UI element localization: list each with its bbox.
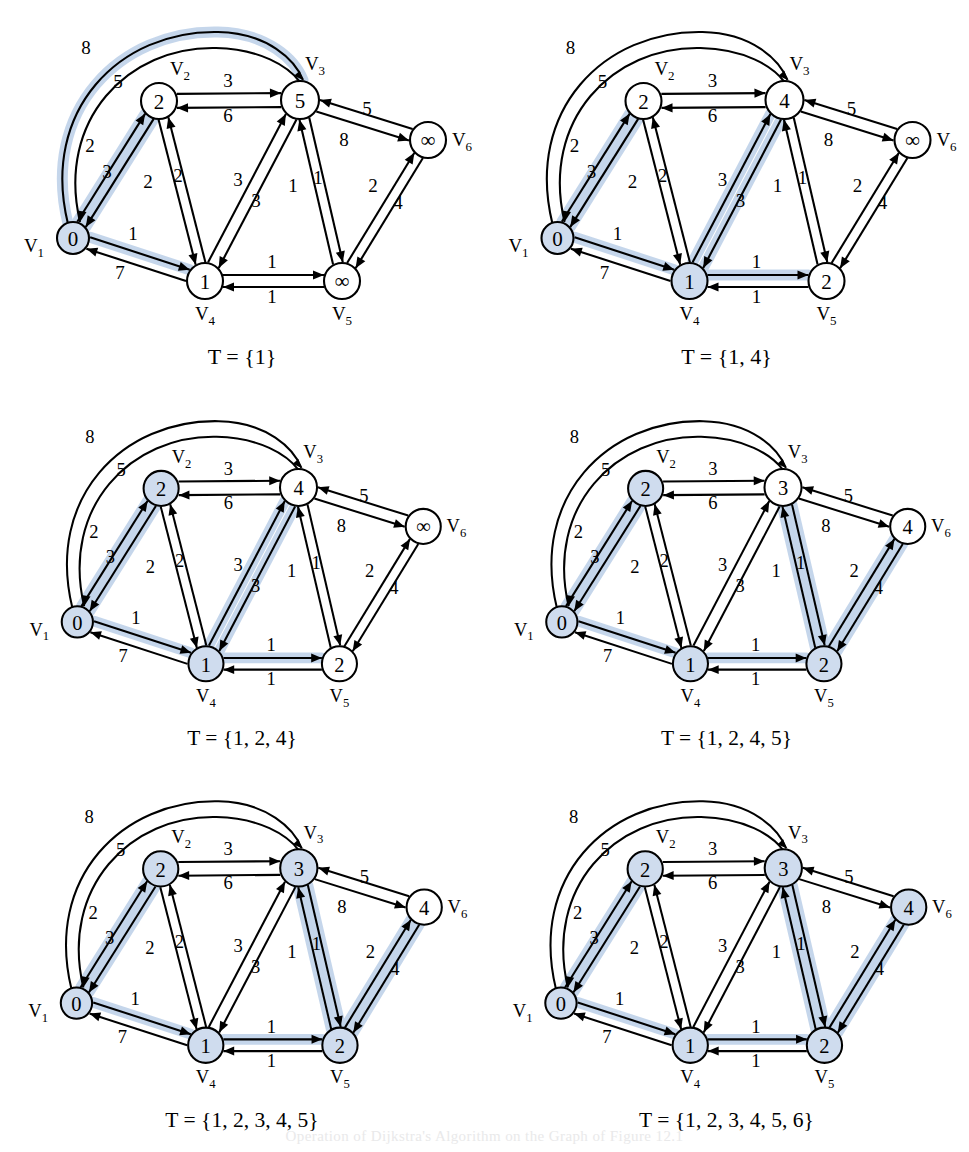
edge-v2_v4 <box>643 120 680 265</box>
edge-weight-v3_v6: 8 <box>337 896 346 917</box>
edge-v4_v2 <box>170 504 206 645</box>
vertex-label-subscript-v5: 5 <box>346 313 353 328</box>
edge-weight-v5_v4_bottom: 1 <box>267 1050 276 1071</box>
vertex-label-v6: V6 <box>447 516 467 540</box>
vertex-label-letter-v3: V <box>303 442 317 462</box>
edge-weight-v1_v3_arc: 8 <box>85 427 94 447</box>
edge-weight-v4_v5_top: 1 <box>267 1016 276 1037</box>
edge-weight-v3_v5_a: 1 <box>287 941 296 962</box>
vertex-label-letter-v3: V <box>304 822 318 843</box>
node-value-v3: 3 <box>778 858 788 880</box>
edge-v5_v6 <box>829 539 895 646</box>
edge-weight-v6_v3: 5 <box>360 866 369 887</box>
edge-weight-v2_v4_b: 2 <box>175 551 184 571</box>
vertex-label-letter-v4: V <box>679 303 693 324</box>
arrowhead-v6_v3 <box>803 867 815 876</box>
vertex-label-v6: V6 <box>452 129 473 154</box>
edge-weight-v2_v4_b: 2 <box>658 165 668 186</box>
vertex-label-v2: V2 <box>170 58 190 83</box>
vertex-label-subscript-v4: 4 <box>209 313 216 328</box>
vertex-label-subscript-v1: 1 <box>42 1011 48 1025</box>
arrowhead-v2_v3 <box>754 89 765 98</box>
arrowhead-v5_v4 <box>708 282 719 291</box>
arrowhead-v3_v6 <box>882 133 894 142</box>
vertex-label-v2: V2 <box>654 58 674 83</box>
vertex-label-subscript-v1: 1 <box>527 629 533 643</box>
edge-weight-v5_v6: 2 <box>850 941 859 962</box>
figure-grid: 852322361733111185240251∞∞V1V2V3V4V5V6T … <box>0 0 969 1152</box>
edge-weight-v2_v3_top: 3 <box>223 70 233 91</box>
node-value-v5: 2 <box>821 270 832 294</box>
edge-weight-v2_v1_in: 2 <box>574 522 583 542</box>
edge-v4_v3 <box>693 501 769 645</box>
edge-weight-v4_v3_b: 3 <box>736 190 746 211</box>
arrowhead-v2_v3 <box>754 857 765 866</box>
edge-weight-v2_v3_top: 3 <box>224 838 233 859</box>
vertex-label-letter-v2: V <box>654 58 668 79</box>
edge-weight-v3_v2_bottom: 6 <box>708 493 717 513</box>
vertex-label-v4: V4 <box>680 1066 700 1091</box>
vertex-label-subscript-v2: 2 <box>185 837 191 851</box>
node-value-v6: 4 <box>904 897 914 919</box>
edge-weight-v2_v1_in: 2 <box>89 522 98 542</box>
panel-caption: T = {1} <box>208 344 277 369</box>
edge-v2_v3 <box>661 93 765 94</box>
vertex-label-subscript-v1: 1 <box>526 1011 532 1025</box>
vertex-label-letter-v5: V <box>814 686 828 706</box>
node-value-v5: 2 <box>819 1035 829 1057</box>
arrowhead-v3_v6 <box>878 519 889 528</box>
vertex-label-v1: V1 <box>29 620 49 644</box>
vertex-label-letter-v1: V <box>24 235 38 256</box>
weight-label-layer: 85232236173311118524 <box>81 37 403 307</box>
edge-weight-v4_v3_b: 3 <box>251 576 260 596</box>
graph-panel: 85232236173311118524023124V1V2V3V4V5V6T … <box>484 770 969 1152</box>
panel-diagram: 85232236173311118524023124V1V2V3V4V5V6T … <box>484 770 969 1152</box>
vertex-label-letter-v1: V <box>508 235 522 256</box>
edge-weight-v4_v3_a: 3 <box>233 935 242 956</box>
edge-v2_v3 <box>178 861 280 862</box>
edge-weight-v1_v2_out: 5 <box>113 71 123 92</box>
edge-v2_v3 <box>663 481 764 482</box>
node-value-v4: 1 <box>201 1035 211 1057</box>
edge-weight-v1_v2_low: 3 <box>590 547 599 567</box>
edge-v4_v3 <box>693 882 769 1027</box>
edge-weight-v4_v1_bottom: 7 <box>603 646 612 666</box>
vertex-label-v4: V4 <box>196 686 216 710</box>
vertex-label-subscript-v3: 3 <box>801 452 807 466</box>
arrowhead-v6_v3 <box>318 486 330 495</box>
arrowhead-v5_v4 <box>223 665 234 674</box>
edge-weight-v4_v3_b: 3 <box>251 956 260 977</box>
edge-weight-v1_v4_top: 1 <box>131 608 140 628</box>
edge-v4_v3 <box>693 114 771 262</box>
panel-diagram: 85232236173311118524023124V1V2V3V4V5V6T … <box>0 770 484 1152</box>
vertex-label-subscript-v3: 3 <box>317 452 323 466</box>
arrowhead-v5_v4 <box>223 1047 234 1056</box>
vertex-label-v2: V2 <box>656 826 676 851</box>
edge-weight-v3_v2_bottom: 6 <box>223 105 233 126</box>
arrowhead-v5_v4 <box>708 665 719 674</box>
vertex-label-v4: V4 <box>681 686 701 710</box>
vertex-label-subscript-v2: 2 <box>668 68 675 83</box>
edge-weight-v5_v6: 2 <box>853 175 863 196</box>
edge-weight-v2_v4_b: 2 <box>660 551 669 571</box>
edge-weight-v6_v5: 4 <box>390 958 400 979</box>
edge-weight-v1_v3_arc: 8 <box>81 37 91 58</box>
arrowhead-v3_v6 <box>394 900 406 909</box>
arrowhead-v4_v5 <box>313 270 324 279</box>
edge-v4_v3 <box>209 501 285 645</box>
node-value-v6: ∞ <box>421 128 436 152</box>
edge-weight-v5_v6: 2 <box>850 561 859 581</box>
graph-panel: 8523223617331111852402412∞V1V2V3V4V5V6T … <box>484 0 969 390</box>
panel-caption: T = {1, 4} <box>681 344 772 369</box>
vertex-label-letter-v2: V <box>170 58 184 79</box>
vertex-label-subscript-v3: 3 <box>803 63 810 78</box>
node-value-v1: 0 <box>72 612 82 634</box>
vertex-label-v3: V3 <box>788 442 808 466</box>
node-value-v3: 3 <box>778 477 788 499</box>
edge-weight-v1_v3_arc: 8 <box>85 806 94 827</box>
node-value-v2: 2 <box>640 859 650 881</box>
graph-panel: 85232236173311118524023124V1V2V3V4V5V6T … <box>0 770 484 1152</box>
figure-bottom-caption: Operation of Dijkstra's Algorithm on the… <box>0 1128 969 1152</box>
node-value-v2: 2 <box>156 859 166 881</box>
edge-weight-v1_v3_arc: 8 <box>570 427 579 447</box>
